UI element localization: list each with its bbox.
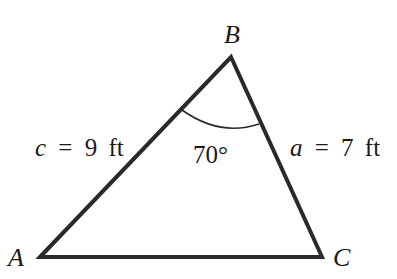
vertex-label-a: A — [6, 243, 24, 272]
vertex-label-b: B — [224, 20, 240, 49]
triangle-abc — [40, 57, 322, 257]
angle-b-label: 70° — [193, 141, 228, 168]
side-a-var: a — [290, 134, 303, 161]
side-a-unit: ft — [365, 134, 380, 161]
angle-b-arc — [182, 110, 259, 128]
side-c-var: c — [35, 134, 46, 161]
side-c-unit: ft — [108, 134, 123, 161]
triangle-figure: B A C c = 9 ft 70° a = 7 ft — [0, 0, 397, 279]
side-c-eq: = — [58, 134, 72, 161]
triangle-diagram: B A C c = 9 ft 70° a = 7 ft — [0, 0, 397, 279]
side-a-label: a = 7 ft — [290, 134, 380, 161]
vertex-label-c: C — [333, 243, 351, 272]
side-c-value: 9 — [85, 134, 98, 161]
side-a-value: 7 — [341, 134, 354, 161]
side-a-eq: = — [315, 134, 329, 161]
side-c-label: c = 9 ft — [35, 134, 124, 161]
